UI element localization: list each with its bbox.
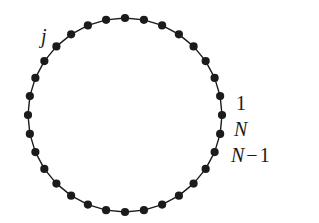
ring-node (218, 111, 226, 119)
ring-node (52, 42, 60, 50)
node-label-n: N (234, 119, 247, 139)
ring-node (102, 206, 110, 214)
ring-node (40, 57, 48, 65)
ring-node (216, 130, 224, 138)
ring-node (40, 165, 48, 173)
ring-node (202, 57, 210, 65)
ring-node (175, 30, 183, 38)
ring-node (24, 111, 32, 119)
ring-node (67, 192, 75, 200)
node-label-j: j (41, 26, 47, 46)
ring-node (26, 92, 34, 100)
ring-node (158, 21, 166, 29)
ring-node (175, 192, 183, 200)
ring-node (31, 148, 39, 156)
ring-node (121, 208, 129, 216)
node-label-n-minus-1: N−1 (231, 145, 270, 165)
ring-node (140, 16, 148, 24)
ring-node (158, 201, 166, 209)
n-minus-1-symbol: N (231, 144, 244, 166)
n-minus-1-operand: 1 (260, 144, 270, 166)
ring-nodes-group (24, 14, 226, 216)
ring-node (211, 74, 219, 82)
ring-node (121, 14, 129, 22)
ring-node (67, 30, 75, 38)
ring-node (102, 16, 110, 24)
ring-node (31, 74, 39, 82)
ring-node (189, 42, 197, 50)
ring-node (26, 130, 34, 138)
ring-node (84, 21, 92, 29)
ring-node (140, 206, 148, 214)
ring-node (52, 179, 60, 187)
ring-lattice-figure: j 1 N N−1 (0, 0, 319, 223)
node-label-1: 1 (236, 93, 246, 113)
ring-lattice-graphic (0, 0, 319, 223)
ring-node (202, 165, 210, 173)
ring-node (211, 148, 219, 156)
ring-node (84, 201, 92, 209)
n-minus-1-operator: − (244, 144, 259, 166)
ring-node (216, 92, 224, 100)
ring-node (189, 179, 197, 187)
